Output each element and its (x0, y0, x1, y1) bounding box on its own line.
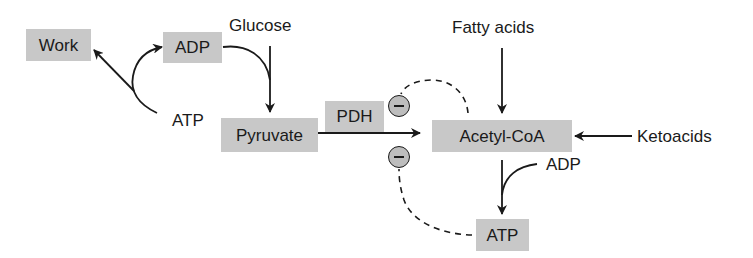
dashed-atp-inhibition (399, 169, 472, 235)
inhibitor-minus-icon (388, 146, 410, 168)
pdh-label: PDH (337, 108, 373, 125)
fatty-acids-label: Fatty acids (452, 19, 534, 36)
acetyl-coa-label: Acetyl-CoA (459, 128, 544, 145)
atp-node: ATP (476, 219, 529, 251)
adp-label: ADP (175, 39, 210, 56)
inhibitor-minus-icon (388, 95, 410, 117)
atp-label: ATP (487, 227, 519, 244)
dashed-acetylcoa-inhibition (401, 80, 468, 113)
acetyl-coa-node: Acetyl-CoA (432, 120, 572, 152)
ketoacids-label: Ketoacids (637, 128, 712, 145)
minus-icon (394, 105, 404, 107)
work-label: Work (39, 37, 78, 54)
atp-left-label: ATP (172, 112, 204, 129)
pyruvate-label: Pyruvate (236, 127, 303, 144)
pyruvate-node: Pyruvate (221, 118, 318, 152)
adp-node: ADP (163, 32, 222, 63)
arrow-adp-into-glucose (223, 47, 270, 80)
adp-right-label: ADP (546, 156, 581, 173)
arrow-atp-to-adp (132, 47, 162, 113)
work-node: Work (26, 29, 91, 61)
minus-icon (394, 156, 404, 158)
arrow-adp-into-atp-line (502, 164, 537, 195)
arrow-atp-to-work (94, 50, 134, 91)
pdh-node: PDH (325, 101, 384, 132)
glucose-label: Glucose (229, 17, 291, 34)
